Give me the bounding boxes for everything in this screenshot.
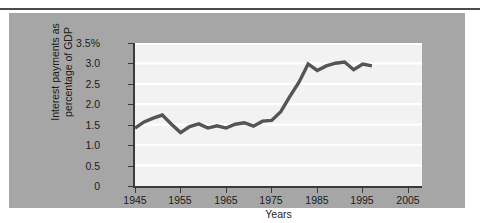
figure-panel: Interest payments aspercentage of GDP 3.… [9, 13, 465, 208]
y-axis-title-line1: Interest payments as [49, 23, 61, 120]
x-tick-label-1945: 1945 [115, 194, 155, 206]
y-tick-label-2.5: 2.5 [85, 79, 100, 90]
x-tick-label-1995: 1995 [342, 194, 382, 206]
y-tick-label-1.0: 1.0 [85, 140, 100, 151]
plot-area [135, 43, 422, 186]
y-tick-label-0: 0 [94, 181, 100, 192]
y-tick-label-0.5: 0.5 [85, 161, 100, 172]
x-tick-mark [180, 188, 181, 193]
x-tick-mark [226, 188, 227, 193]
x-tick-label-1985: 1985 [297, 194, 337, 206]
gridlines [135, 44, 422, 166]
x-tick-label-2005: 2005 [388, 194, 428, 206]
x-tick-mark [317, 188, 318, 193]
y-tick-label-3.0: 3.0 [85, 58, 100, 69]
y-axis-spine [133, 43, 135, 188]
y-tick-label-2.0: 2.0 [85, 99, 100, 110]
x-tick-mark [408, 188, 409, 193]
y-tick-label-3.5: 3.5% [76, 38, 100, 49]
y-axis-title-line2: percentage of GDP [62, 27, 74, 117]
x-axis-spine [133, 186, 422, 188]
x-tick-mark [135, 188, 136, 193]
x-tick-label-1965: 1965 [206, 194, 246, 206]
x-tick-mark [362, 188, 363, 193]
x-tick-mark [271, 188, 272, 193]
y-axis-title: Interest payments aspercentage of GDP [49, 0, 75, 152]
data-series-line [135, 62, 372, 133]
figure-root: Interest payments aspercentage of GDP 3.… [0, 0, 480, 223]
plot-svg [135, 43, 422, 186]
x-tick-label-1975: 1975 [251, 194, 291, 206]
x-tick-label-1955: 1955 [160, 194, 200, 206]
y-tick-label-1.5: 1.5 [85, 120, 100, 131]
x-axis-title: Years [135, 208, 422, 220]
